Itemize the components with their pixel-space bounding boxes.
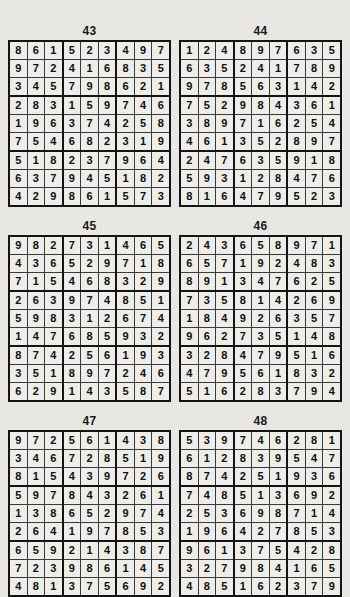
sudoku-cell[interactable]: 9: [27, 310, 45, 328]
sudoku-cell[interactable]: 4: [234, 188, 252, 207]
sudoku-cell[interactable]: 5: [116, 188, 134, 207]
sudoku-cell[interactable]: 3: [98, 41, 116, 60]
sudoku-cell[interactable]: 7: [45, 170, 63, 188]
sudoku-cell[interactable]: 7: [152, 383, 170, 402]
sudoku-cell[interactable]: 3: [252, 328, 270, 347]
sudoku-cell[interactable]: 4: [269, 560, 287, 578]
sudoku-cell[interactable]: 4: [252, 273, 270, 292]
sudoku-cell[interactable]: 8: [287, 365, 305, 383]
sudoku-grid[interactable]: 2436589716571924838913476257358142691849…: [179, 235, 342, 402]
sudoku-cell[interactable]: 1: [9, 328, 27, 347]
sudoku-cell[interactable]: 5: [323, 41, 341, 60]
sudoku-cell[interactable]: 6: [116, 310, 134, 328]
sudoku-cell[interactable]: 5: [27, 541, 45, 560]
sudoku-cell[interactable]: 9: [152, 273, 170, 292]
sudoku-grid[interactable]: 5397462816128395478742519367485136922536…: [179, 430, 342, 597]
sudoku-cell[interactable]: 6: [116, 78, 134, 97]
sudoku-cell[interactable]: 2: [9, 523, 27, 542]
sudoku-cell[interactable]: 6: [305, 560, 323, 578]
sudoku-cell[interactable]: 7: [180, 291, 198, 310]
sudoku-cell[interactable]: 4: [9, 255, 27, 273]
sudoku-cell[interactable]: 3: [27, 170, 45, 188]
sudoku-cell[interactable]: 2: [287, 431, 305, 450]
sudoku-cell[interactable]: 3: [305, 365, 323, 383]
sudoku-cell[interactable]: 4: [134, 365, 152, 383]
sudoku-cell[interactable]: 8: [152, 431, 170, 450]
sudoku-cell[interactable]: 3: [305, 468, 323, 487]
sudoku-cell[interactable]: 4: [27, 450, 45, 468]
sudoku-cell[interactable]: 4: [198, 236, 216, 255]
sudoku-cell[interactable]: 6: [9, 383, 27, 402]
sudoku-cell[interactable]: 1: [252, 486, 270, 505]
sudoku-cell[interactable]: 1: [134, 133, 152, 152]
sudoku-cell[interactable]: 8: [234, 41, 252, 60]
sudoku-cell[interactable]: 7: [81, 291, 99, 310]
sudoku-cell[interactable]: 9: [98, 468, 116, 487]
sudoku-cell[interactable]: 4: [234, 346, 252, 365]
sudoku-cell[interactable]: 9: [252, 255, 270, 273]
sudoku-cell[interactable]: 4: [98, 115, 116, 133]
sudoku-cell[interactable]: 8: [98, 78, 116, 97]
sudoku-cell[interactable]: 8: [198, 578, 216, 597]
sudoku-cell[interactable]: 7: [9, 560, 27, 578]
sudoku-cell[interactable]: 2: [198, 41, 216, 60]
sudoku-cell[interactable]: 1: [98, 431, 116, 450]
sudoku-cell[interactable]: 6: [252, 578, 270, 597]
sudoku-cell[interactable]: 4: [27, 78, 45, 97]
sudoku-cell[interactable]: 3: [269, 486, 287, 505]
sudoku-cell[interactable]: 9: [323, 578, 341, 597]
sudoku-cell[interactable]: 1: [134, 450, 152, 468]
sudoku-cell[interactable]: 4: [287, 541, 305, 560]
sudoku-cell[interactable]: 7: [81, 115, 99, 133]
sudoku-cell[interactable]: 9: [234, 560, 252, 578]
sudoku-cell[interactable]: 8: [9, 468, 27, 487]
sudoku-cell[interactable]: 9: [45, 541, 63, 560]
sudoku-grid[interactable]: 9725614383467285198154397265978432611386…: [8, 430, 171, 597]
sudoku-cell[interactable]: 2: [63, 346, 81, 365]
sudoku-cell[interactable]: 8: [9, 346, 27, 365]
sudoku-cell[interactable]: 9: [198, 170, 216, 188]
sudoku-cell[interactable]: 5: [216, 60, 234, 78]
sudoku-cell[interactable]: 8: [81, 133, 99, 152]
sudoku-cell[interactable]: 8: [116, 291, 134, 310]
sudoku-cell[interactable]: 1: [323, 431, 341, 450]
sudoku-cell[interactable]: 3: [287, 578, 305, 597]
sudoku-cell[interactable]: 3: [81, 151, 99, 170]
sudoku-cell[interactable]: 2: [198, 560, 216, 578]
sudoku-cell[interactable]: 9: [152, 450, 170, 468]
sudoku-cell[interactable]: 6: [98, 346, 116, 365]
sudoku-cell[interactable]: 8: [269, 505, 287, 523]
sudoku-cell[interactable]: 5: [198, 96, 216, 115]
sudoku-cell[interactable]: 4: [323, 115, 341, 133]
sudoku-cell[interactable]: 1: [45, 41, 63, 60]
sudoku-cell[interactable]: 6: [27, 523, 45, 542]
sudoku-cell[interactable]: 5: [152, 560, 170, 578]
sudoku-cell[interactable]: 3: [98, 383, 116, 402]
sudoku-cell[interactable]: 4: [198, 486, 216, 505]
sudoku-cell[interactable]: 8: [81, 560, 99, 578]
sudoku-cell[interactable]: 5: [27, 133, 45, 152]
sudoku-cell[interactable]: 8: [323, 328, 341, 347]
sudoku-cell[interactable]: 2: [269, 578, 287, 597]
sudoku-cell[interactable]: 6: [234, 151, 252, 170]
sudoku-cell[interactable]: 6: [305, 96, 323, 115]
sudoku-cell[interactable]: 4: [323, 505, 341, 523]
sudoku-cell[interactable]: 2: [287, 291, 305, 310]
sudoku-cell[interactable]: 6: [234, 505, 252, 523]
sudoku-cell[interactable]: 1: [198, 450, 216, 468]
sudoku-cell[interactable]: 4: [81, 383, 99, 402]
sudoku-cell[interactable]: 5: [45, 78, 63, 97]
sudoku-cell[interactable]: 4: [180, 578, 198, 597]
sudoku-cell[interactable]: 7: [305, 236, 323, 255]
sudoku-cell[interactable]: 2: [269, 255, 287, 273]
sudoku-cell[interactable]: 3: [116, 133, 134, 152]
sudoku-cell[interactable]: 9: [134, 578, 152, 597]
sudoku-cell[interactable]: 7: [116, 255, 134, 273]
sudoku-cell[interactable]: 2: [9, 96, 27, 115]
sudoku-cell[interactable]: 5: [63, 255, 81, 273]
sudoku-cell[interactable]: 4: [81, 170, 99, 188]
sudoku-cell[interactable]: 6: [323, 170, 341, 188]
sudoku-cell[interactable]: 2: [323, 486, 341, 505]
sudoku-cell[interactable]: 5: [81, 96, 99, 115]
sudoku-cell[interactable]: 4: [198, 151, 216, 170]
